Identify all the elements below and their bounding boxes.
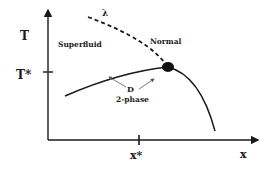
y-tick-label: T* xyxy=(16,68,32,82)
d-arrow-left xyxy=(109,77,126,87)
two-phase-letter: D xyxy=(127,84,134,94)
lambda-label: λ xyxy=(102,8,108,18)
normal-label: Normal xyxy=(150,37,182,46)
superfluid-label: Superfluid xyxy=(58,40,103,49)
phase-diagram: T T* x x* Superfluid Normal λ D 2-phase xyxy=(0,0,271,169)
x-tick-label: x* xyxy=(130,149,143,162)
x-axis-label: x xyxy=(240,148,247,161)
y-axis-label: T xyxy=(20,29,29,43)
two-phase-label: 2-phase xyxy=(116,95,149,104)
d-arrow-right xyxy=(139,79,154,89)
tricritical-point xyxy=(162,62,174,72)
